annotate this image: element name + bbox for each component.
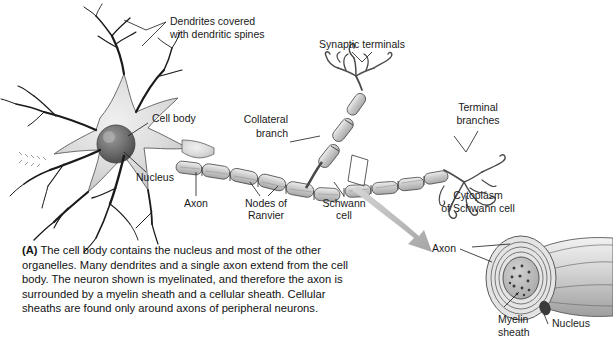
label-schwann-line1: Schwann	[322, 197, 365, 209]
inset-axon-core	[503, 257, 539, 299]
label-terminal-line1: Terminal	[458, 101, 498, 113]
label-inset-axon: Axon	[432, 242, 456, 254]
label-inset-myelin-line1: Myelin	[498, 313, 529, 325]
synaptic-terminal-arbor	[325, 44, 391, 90]
label-inset-cytoplasm-line1: Cytoplasm	[453, 189, 503, 201]
myelinated-axon	[175, 160, 448, 201]
label-nucleus: Nucleus	[136, 171, 174, 183]
axon-hillock	[182, 140, 214, 158]
label-dendrites-line2: with dendritic spines	[169, 28, 265, 40]
dendrite-branches	[1, 4, 182, 252]
caption-text: The cell body contains the nucleus and m…	[22, 244, 348, 314]
label-nodes-line2: Ranvier	[248, 209, 285, 221]
myelin-segment	[285, 181, 315, 199]
cut-plane-marker	[348, 155, 368, 186]
figure-panel: Dendrites covered with dendritic spines …	[0, 0, 613, 348]
label-axon: Axon	[184, 197, 208, 209]
label-collateral-line1: Collateral	[244, 113, 288, 125]
nucleus-highlight	[103, 131, 115, 143]
schwann-cell-inset	[486, 236, 613, 320]
label-collateral-line2: branch	[256, 127, 288, 139]
label-nodes-line1: Nodes of	[245, 197, 287, 209]
label-cell-body: Cell body	[152, 112, 197, 124]
myelin-segment	[372, 181, 399, 195]
myelin-segment	[201, 163, 231, 180]
myelin-segment	[257, 173, 287, 192]
myelin-segment	[397, 177, 424, 192]
caption-marker: (A)	[22, 244, 38, 256]
myelin-segment	[423, 170, 449, 185]
label-inset-nucleus: Nucleus	[552, 317, 590, 329]
figure-caption: (A) The cell body contains the nucleus a…	[22, 243, 352, 316]
label-synaptic-terminals: Synaptic terminals	[319, 38, 405, 50]
label-schwann-line2: cell	[336, 209, 352, 221]
label-dendrites-line1: Dendrites covered	[170, 15, 255, 27]
label-inset-cytoplasm-line2: of Schwann cell	[441, 202, 515, 214]
zoom-arrow	[352, 186, 432, 252]
dendritic-spines	[19, 152, 46, 167]
myelin-segment	[229, 167, 259, 186]
label-inset-myelin-line2: sheath	[498, 326, 530, 338]
soma-group	[1, 4, 214, 252]
label-terminal-line2: branches	[456, 114, 499, 126]
